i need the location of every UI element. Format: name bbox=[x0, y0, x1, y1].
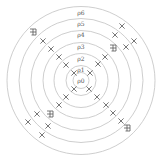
x-mark-icon bbox=[87, 70, 92, 75]
x-mark-icon bbox=[40, 38, 45, 43]
x-mark-icon bbox=[112, 32, 117, 37]
ring-label-4: ρ4 bbox=[77, 31, 85, 39]
concentric-ring-diagram: ρ0ρ1ρ2ρ3ρ4ρ5ρ6 bbox=[0, 0, 156, 161]
ring-label-2: ρ2 bbox=[77, 55, 85, 63]
x-mark-icon bbox=[95, 61, 100, 66]
hatch-mark-icon bbox=[124, 125, 130, 131]
ring-label-6: ρ6 bbox=[77, 9, 85, 17]
hatch-mark-icon bbox=[30, 29, 36, 35]
x-mark-icon bbox=[34, 111, 39, 116]
x-mark-icon bbox=[86, 86, 91, 91]
x-mark-icon bbox=[56, 102, 61, 107]
x-mark-icon bbox=[123, 44, 128, 49]
x-mark-icon bbox=[56, 54, 61, 59]
x-mark-icon bbox=[63, 94, 68, 99]
x-mark-icon bbox=[103, 102, 108, 107]
x-mark-icon bbox=[45, 123, 50, 128]
x-mark-icon bbox=[71, 86, 76, 91]
hatch-mark-icon bbox=[110, 45, 116, 51]
ring-label-0: ρ0 bbox=[77, 77, 85, 85]
x-mark-icon bbox=[39, 132, 44, 137]
x-mark-icon bbox=[118, 118, 123, 123]
ring-label-5: ρ5 bbox=[77, 20, 85, 28]
x-mark-icon bbox=[71, 70, 76, 75]
hatch-mark-icon bbox=[47, 111, 53, 117]
x-mark-icon bbox=[131, 38, 136, 43]
x-mark-icon bbox=[119, 23, 124, 28]
ring-label-3: ρ3 bbox=[77, 43, 85, 51]
x-mark-icon bbox=[63, 62, 68, 67]
ring-label-1: ρ1 bbox=[77, 66, 84, 74]
x-mark-icon bbox=[102, 54, 107, 59]
x-mark-icon bbox=[110, 110, 115, 115]
x-mark-icon bbox=[25, 119, 30, 124]
x-mark-icon bbox=[48, 46, 53, 51]
x-mark-icon bbox=[94, 94, 99, 99]
